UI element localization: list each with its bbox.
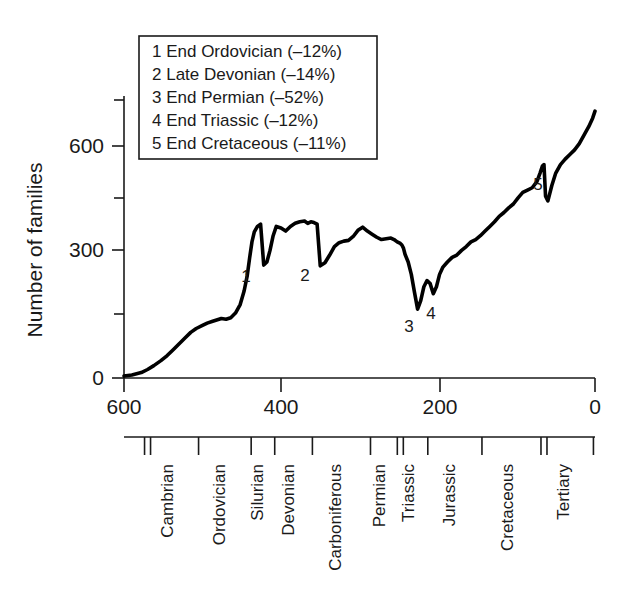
legend-entry-4: 4 End Triassic (–12%)	[152, 111, 318, 130]
diversity-chart-figure: Number of families 600 300 0 600 400 200	[0, 0, 623, 613]
period-label-silurian: Silurian	[248, 464, 267, 521]
legend-entry-2: 2 Late Devonian (–14%)	[152, 65, 335, 84]
period-label-jurassic: Jurassic	[440, 464, 459, 527]
event-marker-4: 4	[426, 304, 435, 323]
y-axis-title: Number of families	[23, 162, 46, 337]
legend: 1 End Ordovician (–12%) 2 Late Devonian …	[139, 36, 377, 159]
legend-entry-5: 5 End Cretaceous (–11%)	[152, 134, 346, 153]
period-label-triassic: Triassic	[399, 464, 418, 522]
period-label-devonian: Devonian	[279, 464, 298, 536]
chart-svg: Number of families 600 300 0 600 400 200	[0, 0, 623, 613]
period-label-cambrian: Cambrian	[158, 464, 177, 538]
event-marker-2: 2	[300, 266, 309, 285]
period-label-carboniferous: Carboniferous	[326, 464, 345, 571]
period-label-ordovician: Ordovician	[210, 464, 229, 545]
legend-entry-1: 1 End Ordovician (–12%)	[152, 42, 342, 61]
y-tick-label-0: 0	[92, 366, 104, 389]
event-marker-5: 5	[533, 175, 542, 194]
event-marker-3: 3	[404, 317, 413, 336]
period-label-permian: Permian	[370, 464, 389, 527]
x-tick-label-0: 0	[589, 395, 601, 418]
x-tick-label-200: 200	[422, 395, 457, 418]
y-tick-label-300: 300	[69, 238, 104, 261]
period-label-tertiary: Tertiary	[554, 464, 573, 520]
x-tick-label-600: 600	[106, 395, 141, 418]
period-label-cretaceous: Cretaceous	[498, 464, 517, 551]
y-tick-label-600: 600	[69, 134, 104, 157]
x-tick-label-400: 400	[263, 395, 298, 418]
event-marker-1: 1	[241, 267, 250, 286]
legend-entry-3: 3 End Permian (–52%)	[152, 88, 324, 107]
